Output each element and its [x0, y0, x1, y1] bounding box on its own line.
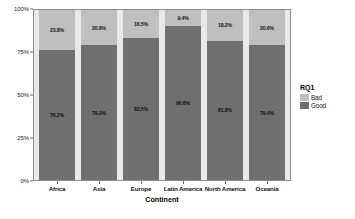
bar-segment-good[interactable]: 79.4%: [249, 45, 285, 180]
bar-segment-bad[interactable]: 16.5%: [123, 10, 159, 38]
bar-value-label: 79.4%: [260, 110, 274, 116]
bar-segment-good[interactable]: 76.2%: [39, 50, 75, 180]
bar-group: 23.8%76.2%20.8%79.2%16.5%83.5%9.4%90.6%1…: [34, 10, 290, 180]
x-tick-label: Europe: [131, 185, 151, 192]
x-tick-label: Africa: [49, 185, 66, 192]
bar-segment-bad[interactable]: 20.6%: [249, 10, 285, 45]
legend-swatch: [300, 102, 309, 109]
x-tick-mark: [99, 181, 100, 184]
x-tick-mark: [225, 181, 226, 184]
x-tick-mark: [141, 181, 142, 184]
x-tick-mark: [183, 181, 184, 184]
legend-item[interactable]: Bad: [300, 94, 352, 101]
bar-column[interactable]: 18.2%81.8%: [207, 10, 243, 180]
bar-segment-bad[interactable]: 18.2%: [207, 10, 243, 41]
bar-value-label: 23.8%: [50, 27, 64, 33]
bar-column[interactable]: 9.4%90.6%: [165, 10, 201, 180]
x-tick-label: Latin America: [164, 185, 203, 192]
bar-value-label: 20.6%: [260, 25, 274, 31]
y-tick-label: 100%: [14, 6, 29, 12]
bar-segment-bad[interactable]: 9.4%: [165, 10, 201, 26]
bar-value-label: 81.8%: [218, 107, 232, 113]
plot-area: 23.8%76.2%20.8%79.2%16.5%83.5%9.4%90.6%1…: [33, 9, 291, 181]
bar-segment-good[interactable]: 90.6%: [165, 26, 201, 180]
y-tick-label: 0%: [21, 178, 29, 184]
bar-segment-bad[interactable]: 20.8%: [81, 10, 117, 45]
bar-column[interactable]: 20.8%79.2%: [81, 10, 117, 180]
bar-value-label: 16.5%: [134, 21, 148, 27]
bar-segment-good[interactable]: 83.5%: [123, 38, 159, 180]
x-tick-label: Oceania: [255, 185, 278, 192]
x-tick-mark: [57, 181, 58, 184]
y-axis: 0%25%50%75%100%: [0, 9, 33, 181]
bar-column[interactable]: 23.8%76.2%: [39, 10, 75, 180]
legend-label: Good: [311, 102, 326, 109]
bar-segment-good[interactable]: 81.8%: [207, 41, 243, 180]
y-tick-label: 25%: [17, 135, 29, 141]
bar-value-label: 79.2%: [92, 110, 106, 116]
bar-value-label: 20.8%: [92, 25, 106, 31]
legend-items: BadGood: [300, 94, 352, 109]
bar-value-label: 9.4%: [177, 15, 188, 21]
legend-swatch: [300, 94, 309, 101]
legend-title: RQ1: [300, 84, 352, 91]
legend-label: Bad: [311, 94, 322, 101]
legend: RQ1 BadGood: [300, 84, 352, 110]
bar-value-label: 90.6%: [176, 100, 190, 106]
y-tick-label: 75%: [17, 49, 29, 55]
bar-segment-bad[interactable]: 23.8%: [39, 10, 75, 50]
x-tick-mark: [267, 181, 268, 184]
legend-item[interactable]: Good: [300, 102, 352, 109]
x-axis-title: Continent: [33, 195, 291, 204]
bar-column[interactable]: 20.6%79.4%: [249, 10, 285, 180]
y-tick-label: 50%: [17, 92, 29, 98]
bar-value-label: 76.2%: [50, 112, 64, 118]
stacked-bar-chart: 0%25%50%75%100% 23.8%76.2%20.8%79.2%16.5…: [0, 0, 355, 219]
x-tick-label: Asia: [93, 185, 105, 192]
bar-segment-good[interactable]: 79.2%: [81, 45, 117, 180]
bar-value-label: 18.2%: [218, 22, 232, 28]
bar-value-label: 83.5%: [134, 106, 148, 112]
bar-column[interactable]: 16.5%83.5%: [123, 10, 159, 180]
x-tick-label: North America: [205, 185, 245, 192]
